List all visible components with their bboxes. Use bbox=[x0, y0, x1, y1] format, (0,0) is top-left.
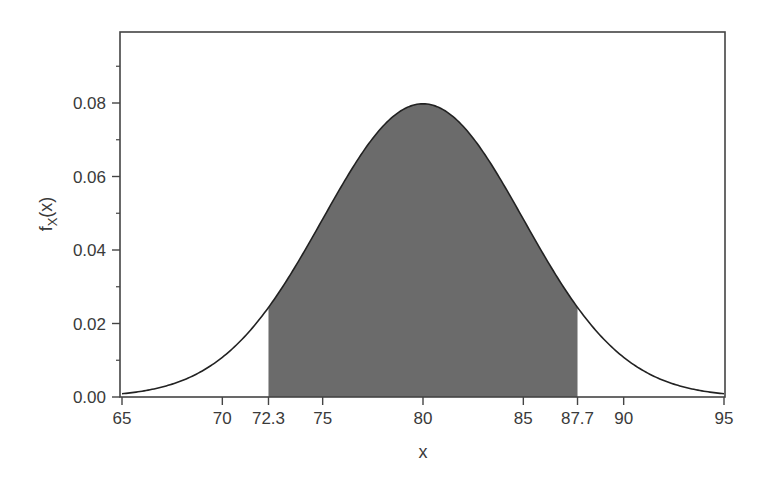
x-axis-ticks: 657072.375808587.79095 bbox=[113, 397, 734, 428]
x-tick-label: 95 bbox=[715, 409, 734, 428]
x-tick-label: 75 bbox=[313, 409, 332, 428]
y-tick-label: 0.00 bbox=[73, 388, 106, 407]
y-tick-label: 0.04 bbox=[73, 241, 106, 260]
y-tick-label: 0.02 bbox=[73, 315, 106, 334]
y-tick-label: 0.08 bbox=[73, 94, 106, 113]
x-tick-label: 90 bbox=[614, 409, 633, 428]
x-tick-label: 87.7 bbox=[561, 409, 594, 428]
x-axis-title: x bbox=[419, 442, 428, 462]
x-tick-label: 70 bbox=[213, 409, 232, 428]
x-tick-label: 65 bbox=[113, 409, 132, 428]
shaded-probability-area bbox=[268, 104, 577, 397]
y-tick-label: 0.06 bbox=[73, 168, 106, 187]
x-tick-label: 72.3 bbox=[252, 409, 285, 428]
y-axis-title: fX(x) bbox=[36, 197, 60, 232]
x-tick-label: 85 bbox=[514, 409, 533, 428]
normal-density-chart: 657072.375808587.79095 0.000.020.040.060… bbox=[0, 0, 760, 487]
x-tick-label: 80 bbox=[414, 409, 433, 428]
y-axis-ticks: 0.000.020.040.060.08 bbox=[73, 66, 120, 407]
